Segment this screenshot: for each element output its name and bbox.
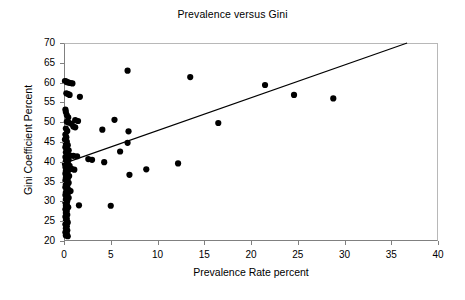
y-tick-label: 70	[31, 38, 55, 48]
data-point	[117, 148, 123, 154]
data-point	[124, 68, 130, 74]
data-point	[72, 124, 78, 130]
y-tick-label: 65	[31, 58, 55, 68]
x-tick-mark	[158, 241, 159, 245]
x-tick-label: 20	[236, 250, 266, 260]
scatter-plot-figure: Prevalence versus Gini 20253035404550556…	[0, 0, 465, 300]
data-point	[65, 233, 71, 239]
data-point	[175, 160, 181, 166]
x-tick-mark	[111, 241, 112, 245]
data-point	[89, 157, 95, 163]
y-tick-label: 60	[31, 78, 55, 88]
data-point	[99, 127, 105, 133]
y-tick-label: 45	[31, 137, 55, 147]
y-tick-label: 25	[31, 216, 55, 226]
data-point	[67, 92, 73, 98]
x-tick-label: 10	[143, 250, 173, 260]
x-tick-label: 30	[330, 250, 360, 260]
x-tick-mark	[298, 241, 299, 245]
y-tick-label: 30	[31, 196, 55, 206]
x-tick-mark	[64, 241, 65, 245]
x-tick-label: 25	[283, 250, 313, 260]
data-point-group	[62, 68, 337, 240]
data-point	[75, 118, 81, 124]
data-point	[143, 166, 149, 172]
x-tick-label: 0	[49, 250, 79, 260]
y-tick-label: 35	[31, 177, 55, 187]
data-point	[125, 128, 131, 134]
x-tick-mark	[438, 241, 439, 245]
x-axis-title: Prevalence Rate percent	[64, 266, 438, 278]
y-tick-label: 50	[31, 117, 55, 127]
y-tick-mark	[60, 201, 64, 202]
y-tick-mark	[60, 182, 64, 183]
y-tick-mark	[60, 142, 64, 143]
y-tick-label: 20	[31, 236, 55, 246]
y-tick-mark	[60, 102, 64, 103]
x-tick-mark	[204, 241, 205, 245]
chart-title: Prevalence versus Gini	[0, 8, 465, 20]
y-tick-mark	[60, 43, 64, 44]
data-point	[291, 92, 297, 98]
data-point	[126, 172, 132, 178]
data-point	[71, 167, 77, 173]
y-axis-title: Gini Coefficient Percent	[22, 60, 34, 220]
y-tick-mark	[60, 221, 64, 222]
y-tick-mark	[60, 162, 64, 163]
x-tick-mark	[391, 241, 392, 245]
y-tick-mark	[60, 83, 64, 84]
data-point	[76, 202, 82, 208]
x-tick-label: 5	[96, 250, 126, 260]
y-tick-label: 40	[31, 157, 55, 167]
y-tick-mark	[60, 63, 64, 64]
data-point	[108, 203, 114, 209]
x-tick-mark	[345, 241, 346, 245]
data-point	[330, 95, 336, 101]
x-tick-label: 15	[189, 250, 219, 260]
x-tick-mark	[251, 241, 252, 245]
trendline	[64, 43, 407, 163]
data-point	[69, 80, 75, 86]
plot-canvas	[64, 43, 438, 241]
x-tick-label: 40	[423, 250, 453, 260]
x-tick-label: 35	[376, 250, 406, 260]
data-point	[187, 74, 193, 80]
y-tick-label: 55	[31, 97, 55, 107]
data-point	[111, 117, 117, 123]
data-point	[262, 82, 268, 88]
y-tick-mark	[60, 122, 64, 123]
data-point	[215, 120, 221, 126]
data-point	[101, 159, 107, 165]
data-point	[77, 94, 83, 100]
